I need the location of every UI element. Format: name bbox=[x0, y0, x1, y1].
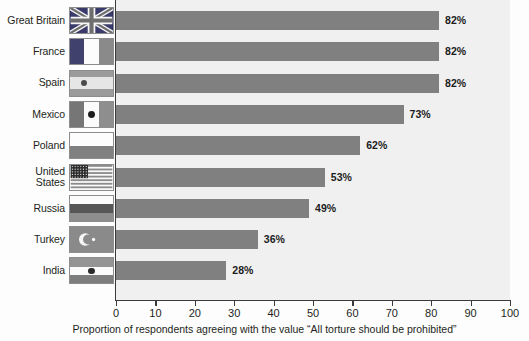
flag-pl-icon bbox=[69, 132, 114, 159]
category-row-france: France bbox=[0, 38, 114, 66]
x-axis-title: Proportion of respondents agreeing with … bbox=[0, 323, 529, 335]
category-label: Poland bbox=[33, 140, 65, 152]
x-tick-mark bbox=[155, 301, 156, 306]
bar-value-label: 82% bbox=[445, 74, 466, 93]
category-label: United States bbox=[35, 166, 65, 189]
category-label: Russia bbox=[34, 203, 66, 215]
bar-value-label: 73% bbox=[410, 105, 431, 124]
x-tick-mark bbox=[195, 301, 196, 306]
bar-russia bbox=[116, 199, 309, 218]
bar-value-label: 62% bbox=[366, 136, 387, 155]
x-tick-label: 10 bbox=[135, 307, 175, 319]
bar-value-label: 28% bbox=[232, 261, 253, 280]
category-row-spain: Spain bbox=[0, 69, 114, 97]
bar-france bbox=[116, 42, 439, 61]
category-row-mexico: Mexico bbox=[0, 100, 114, 128]
flag-mx-icon bbox=[69, 101, 114, 128]
x-tick-label: 0 bbox=[96, 307, 136, 319]
bar-great-britain bbox=[116, 11, 439, 30]
category-row-united-states: United States bbox=[0, 163, 114, 191]
bar-turkey bbox=[116, 230, 258, 249]
x-tick-label: 100 bbox=[490, 307, 529, 319]
category-row-turkey: Turkey bbox=[0, 226, 114, 254]
flag-gb-icon bbox=[69, 7, 114, 34]
flag-tr-icon bbox=[69, 226, 114, 253]
bar-poland bbox=[116, 136, 360, 155]
bar-united-states bbox=[116, 168, 325, 187]
bar-value-label: 49% bbox=[315, 199, 336, 218]
category-row-india: India bbox=[0, 257, 114, 285]
x-tick-mark bbox=[116, 301, 117, 306]
bar-value-label: 53% bbox=[331, 168, 352, 187]
x-tick-mark bbox=[352, 301, 353, 306]
x-tick-label: 70 bbox=[372, 307, 412, 319]
category-label: Turkey bbox=[34, 234, 65, 246]
category-label: Great Britain bbox=[7, 15, 65, 27]
category-row-great-britain: Great Britain bbox=[0, 7, 114, 35]
flag-fr-icon bbox=[69, 38, 114, 65]
x-tick-label: 30 bbox=[214, 307, 254, 319]
bar-value-label: 82% bbox=[445, 11, 466, 30]
x-tick-mark bbox=[510, 301, 511, 306]
flag-in-icon bbox=[69, 257, 114, 284]
bar-chart: Great BritainFranceSpainMexicoPolandUnit… bbox=[0, 0, 529, 341]
x-tick-mark bbox=[313, 301, 314, 306]
x-tick-label: 50 bbox=[293, 307, 333, 319]
category-label-column: Great BritainFranceSpainMexicoPolandUnit… bbox=[0, 0, 114, 311]
category-label: India bbox=[43, 265, 65, 277]
x-tick-label: 90 bbox=[451, 307, 491, 319]
category-label: Mexico bbox=[32, 109, 65, 121]
x-tick-mark bbox=[392, 301, 393, 306]
x-tick-label: 80 bbox=[411, 307, 451, 319]
x-tick-mark bbox=[274, 301, 275, 306]
flag-es-icon bbox=[69, 70, 114, 97]
x-tick-mark bbox=[471, 301, 472, 306]
category-row-poland: Poland bbox=[0, 132, 114, 160]
x-tick-label: 20 bbox=[175, 307, 215, 319]
bar-mexico bbox=[116, 105, 404, 124]
x-tick-mark bbox=[431, 301, 432, 306]
category-label: Spain bbox=[39, 77, 65, 89]
x-tick-mark bbox=[234, 301, 235, 306]
x-tick-label: 60 bbox=[332, 307, 372, 319]
flag-ru-icon bbox=[69, 195, 114, 222]
bar-value-label: 36% bbox=[264, 230, 285, 249]
flag-us-icon bbox=[69, 164, 114, 191]
bar-spain bbox=[116, 74, 439, 93]
bar-value-label: 82% bbox=[445, 42, 466, 61]
bar-india bbox=[116, 261, 226, 280]
category-row-russia: Russia bbox=[0, 194, 114, 222]
category-label: France bbox=[33, 46, 65, 58]
x-tick-label: 40 bbox=[254, 307, 294, 319]
